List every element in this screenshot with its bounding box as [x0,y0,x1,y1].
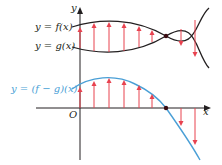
origin-label: O [69,109,77,120]
y-axis-label: y [71,2,77,13]
function-difference-diagram: y y = f(x) y = g(x) y = (f − g)(x) O x [0,0,222,165]
f-label: y = f(x) [35,21,73,32]
difference-arrows-bottom [80,80,195,143]
f-curve [72,8,209,41]
intersection-point [164,34,168,38]
difference-label: y = (f − g)(x) [11,83,77,94]
top-panel [72,8,209,68]
g-curve [72,30,209,68]
g-label: y = g(x) [35,40,75,51]
zero-crossing-point [164,106,168,110]
difference-arrows-top [80,20,195,55]
x-axis-label: x [203,106,209,117]
